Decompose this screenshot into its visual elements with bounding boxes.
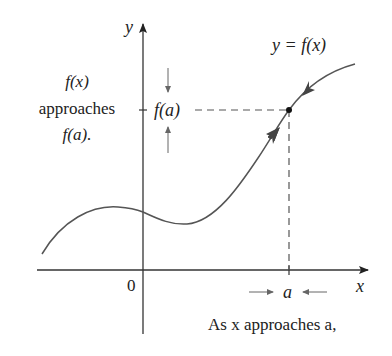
curve-label: y = f(x) bbox=[272, 36, 326, 54]
point-a-fa bbox=[286, 107, 292, 113]
origin-label: 0 bbox=[127, 277, 136, 294]
left-annotation-line1: f(x) bbox=[22, 73, 132, 90]
curve-arrow-upper-icon bbox=[302, 81, 315, 96]
bottom-annotation: As x approaches a, bbox=[208, 316, 336, 333]
y-axis-label: y bbox=[125, 18, 133, 36]
x-axis-label: x bbox=[356, 277, 364, 295]
a-label: a bbox=[283, 283, 292, 301]
left-annotation-line3: f(a). bbox=[22, 126, 132, 143]
left-annotation-line2: approaches bbox=[22, 100, 132, 117]
fa-label: f(a) bbox=[154, 101, 180, 119]
diagram-graphics bbox=[0, 0, 392, 356]
limit-diagram: y x 0 y = f(x) f(a) a f(x) approaches f(… bbox=[0, 0, 392, 356]
